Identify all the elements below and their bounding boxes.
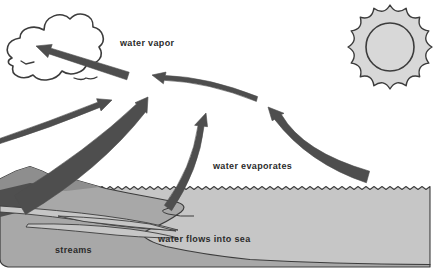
arrow-evaporation-from-sea — [268, 107, 370, 183]
cloud-squiggle — [74, 77, 97, 80]
cloud — [7, 14, 103, 80]
label-water-vapor: water vapor — [119, 38, 175, 48]
label-streams: streams — [55, 245, 92, 255]
arrow-evaporation-left — [0, 99, 112, 144]
label-water-flows-into-sea: water flows into sea — [157, 234, 251, 244]
arrow-vapor-from-right — [152, 72, 258, 101]
label-water-evaporates: water evaporates — [212, 161, 292, 171]
sun-icon — [348, 5, 432, 89]
water-cycle-diagram: water vapor water evaporates water flows… — [0, 0, 441, 277]
